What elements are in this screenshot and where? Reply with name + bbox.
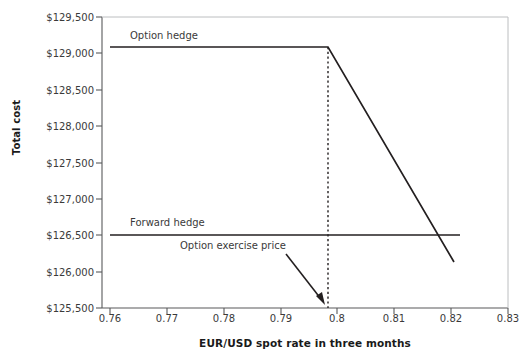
chart-container: Total cost $129,500 $129,000 $128,500 $1… xyxy=(0,0,523,361)
annotation-option-hedge: Option hedge xyxy=(130,30,198,41)
x-axis-ticks xyxy=(110,308,508,314)
series-line-option-hedge xyxy=(110,47,454,262)
plot-area xyxy=(0,0,523,361)
option-exercise-price-arrow xyxy=(286,254,325,305)
annotation-forward-hedge: Forward hedge xyxy=(130,217,205,228)
axis-frame xyxy=(102,17,508,308)
annotation-option-exercise-price: Option exercise price xyxy=(180,240,286,251)
y-axis-ticks xyxy=(96,17,102,308)
x-axis-title: EUR/USD spot rate in three months xyxy=(102,337,508,349)
